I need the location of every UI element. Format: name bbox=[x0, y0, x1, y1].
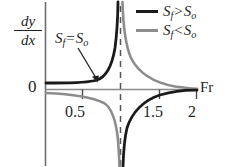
legend-1-symbol-left: S bbox=[163, 3, 171, 19]
legend-2-symbol-left: S bbox=[163, 22, 171, 38]
chart-figure: dy dx Sf=So 0 Fr 0.5 1.5 2 Sf>So Sf<So bbox=[0, 0, 237, 167]
legend-2-operator: < bbox=[173, 22, 183, 38]
legend-1-operator: > bbox=[173, 3, 183, 19]
legend-1-subscript-right: o bbox=[191, 10, 196, 21]
dark-curve-right-branch bbox=[123, 90, 197, 167]
annotation-sf-equals-so: Sf=So bbox=[55, 31, 88, 48]
legend-2-subscript-right: o bbox=[191, 29, 196, 40]
fraction-bar-icon bbox=[14, 30, 42, 31]
annotation-arrow-line bbox=[78, 48, 96, 78]
origin-label: 0 bbox=[28, 78, 37, 95]
y-axis-label-numerator: dy bbox=[13, 14, 43, 30]
x-axis-label: Fr bbox=[200, 80, 213, 95]
x-tick-label-2: 2 bbox=[188, 104, 196, 120]
y-axis-label-denominator: dx bbox=[13, 32, 43, 48]
annotation-operator: = bbox=[65, 30, 75, 46]
legend-entry-sf-greater-so: Sf>So bbox=[163, 4, 196, 21]
x-tick-label-0point5: 0.5 bbox=[65, 104, 85, 120]
x-tick-label-1point5: 1.5 bbox=[143, 104, 163, 120]
legend-entry-sf-less-so: Sf<So bbox=[163, 23, 196, 40]
annotation-subscript-right: o bbox=[83, 37, 88, 48]
annotation-symbol-left: S bbox=[55, 30, 63, 46]
y-axis-label: dy dx bbox=[13, 14, 43, 48]
